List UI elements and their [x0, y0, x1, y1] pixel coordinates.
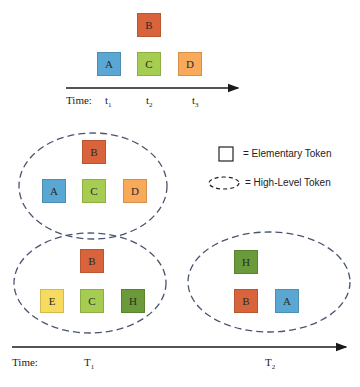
tick-t1: t1	[105, 94, 112, 109]
token-e: E	[40, 289, 64, 313]
token-d: D	[178, 52, 202, 76]
token-h: H	[121, 289, 145, 313]
tick-t2: t2	[146, 94, 153, 109]
token-a: A	[97, 52, 121, 76]
token-c: C	[82, 179, 106, 203]
token-d: D	[123, 179, 147, 203]
legend-elementary-label: = Elementary Token	[243, 148, 331, 159]
token-b: B	[234, 289, 258, 313]
legend-high-level-label: = High-Level Token	[245, 177, 331, 188]
tick-t3: t3	[192, 94, 199, 109]
token-b: B	[82, 140, 106, 164]
token-h: H	[234, 250, 258, 274]
token-b: B	[80, 249, 104, 273]
token-a: A	[275, 289, 299, 313]
token-a: A	[42, 179, 66, 203]
legend-elementary-square-icon	[219, 147, 233, 161]
high-level-token-ellipse-3	[188, 232, 350, 332]
bottom-time-label: Time:	[12, 356, 38, 368]
high-level-token-ellipse-2	[14, 233, 166, 333]
tick-T2: T2	[265, 356, 275, 371]
token-diagram: B A C D Time: t1 t2 t3 B A C D = Element…	[0, 0, 360, 387]
token-c: C	[137, 52, 161, 76]
token-c: C	[80, 289, 104, 313]
token-b: B	[137, 13, 161, 37]
legend-high-level-ellipse-icon	[209, 177, 239, 189]
top-time-label: Time:	[66, 94, 92, 106]
tick-T1: T1	[84, 356, 94, 371]
